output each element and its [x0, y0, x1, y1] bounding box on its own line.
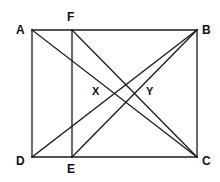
interior-point-label-x: X: [92, 86, 99, 97]
vertex-label-e: E: [67, 163, 75, 175]
vertex-label-c: C: [202, 155, 211, 167]
figure-canvas: [0, 0, 220, 182]
vertex-label-f: F: [67, 11, 74, 23]
vertex-label-d: D: [16, 155, 25, 167]
vertex-label-a: A: [16, 24, 25, 36]
vertex-label-b: B: [202, 24, 211, 36]
interior-point-label-y: Y: [146, 86, 153, 97]
geometry-diagram: A B C D E F X Y: [0, 0, 220, 182]
